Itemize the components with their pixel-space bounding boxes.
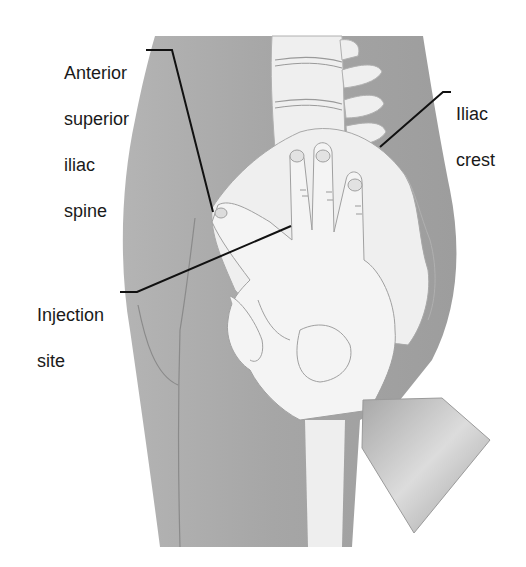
label-line: iliac: [64, 154, 129, 177]
femur: [305, 420, 345, 547]
label-line: crest: [456, 149, 495, 172]
label-line: Injection: [37, 304, 104, 327]
label-injection-site: Injection site: [37, 281, 104, 396]
label-anterior-superior-iliac-spine: Anterior superior iliac spine: [64, 39, 129, 246]
label-line: site: [37, 350, 104, 373]
label-line: superior: [64, 108, 129, 131]
label-line: spine: [64, 200, 129, 223]
label-line: Iliac: [456, 103, 495, 126]
label-line: Anterior: [64, 62, 129, 85]
label-iliac-crest: Iliac crest: [456, 80, 495, 195]
sleeve-cuff: [362, 398, 490, 533]
